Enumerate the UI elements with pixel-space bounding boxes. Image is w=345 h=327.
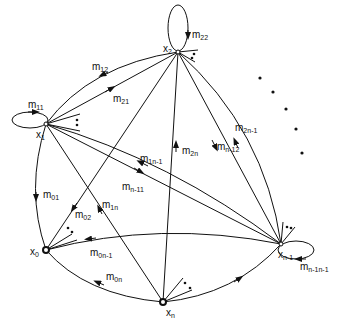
label-m22: m22: [192, 29, 208, 41]
node-x2: [176, 50, 180, 54]
label-m01: m01: [43, 189, 59, 201]
label-m1n-1: m1n-1: [140, 153, 162, 165]
stubs-x2: [178, 50, 198, 62]
stubs-x1: [46, 114, 80, 131]
label-m12: m12: [92, 61, 108, 73]
label-m02: m02: [75, 209, 91, 221]
label-m0n-1: m0n-1: [90, 247, 112, 259]
label-x0: x0: [30, 246, 39, 258]
self-loop-m11: [12, 112, 48, 128]
edge-mn-11: [46, 124, 281, 244]
label-mn-11: mn-11: [122, 181, 144, 193]
markov-chain-diagram: x2 x1 x0 xn xn-1 m22 m11 mn-1n-1 m12 m21…: [0, 0, 345, 327]
edge-m01: [36, 124, 47, 250]
label-m2n-1: m2n-1: [235, 122, 257, 134]
edge-m21: [46, 52, 178, 124]
edge-m02: [46, 52, 178, 250]
label-m21: m21: [113, 93, 129, 105]
node-x1: [44, 122, 48, 126]
edge-m0n-1: [46, 233, 281, 250]
label-m2n: m2n: [182, 145, 198, 157]
edge-m1n: [46, 124, 163, 302]
node-xn: [160, 299, 166, 305]
label-xn: xn: [166, 307, 175, 319]
label-mn-1n-1: mn-1n-1: [300, 261, 329, 273]
self-loop-m22: [168, 5, 188, 51]
label-m0n: m0n: [106, 271, 122, 283]
edge-xn-to-xn-1: [163, 244, 281, 302]
label-m11: m11: [28, 99, 44, 111]
label-xn-1: xn-1: [278, 249, 293, 261]
node-x0: [43, 247, 49, 253]
label-m1n: m1n: [102, 199, 118, 211]
node-xn-1: [279, 242, 283, 246]
ellipsis-dots: [258, 76, 303, 154]
